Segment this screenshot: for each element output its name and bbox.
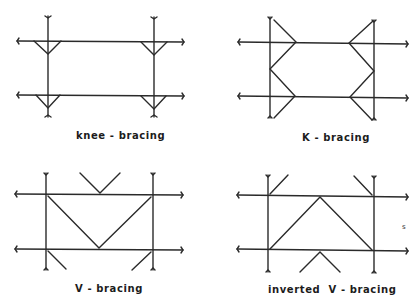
label-k-bracing: K - bracing bbox=[302, 132, 370, 143]
beams bbox=[237, 192, 408, 254]
bracing-diagram: knee - bracing K - bracing bbox=[0, 0, 416, 303]
columns bbox=[44, 173, 155, 270]
beams bbox=[238, 39, 408, 101]
beams bbox=[15, 191, 183, 253]
panel-v-bracing: V - bracing bbox=[15, 173, 183, 294]
label-inverted-v-bracing: inverted V - bracing bbox=[268, 284, 396, 295]
stray-mark: s bbox=[402, 223, 406, 231]
panel-inverted-v-bracing: inverted V - bracing bbox=[237, 175, 408, 295]
panel-knee-bracing: knee - bracing bbox=[17, 16, 184, 141]
v-braces bbox=[48, 173, 151, 270]
inverted-v-braces bbox=[270, 175, 372, 272]
beams bbox=[17, 38, 184, 99]
label-knee-bracing: knee - bracing bbox=[76, 130, 165, 141]
knee-braces bbox=[34, 41, 167, 109]
columns bbox=[45, 16, 157, 117]
columns bbox=[266, 175, 376, 273]
k-braces bbox=[270, 20, 374, 120]
panel-k-bracing: K - bracing bbox=[238, 17, 408, 143]
label-v-bracing: V - bracing bbox=[75, 283, 143, 294]
